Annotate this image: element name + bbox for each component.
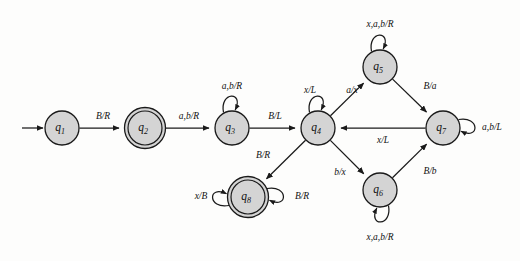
- state-node-q4[interactable]: q4: [301, 111, 335, 145]
- state-node-q3[interactable]: q3: [215, 111, 249, 145]
- edge-label-e_q4_q8: B/R: [256, 150, 270, 160]
- edge-label-e_q5_q7: B/a: [423, 81, 436, 91]
- state-node-q6[interactable]: q6: [363, 173, 397, 207]
- transition-edge-q5-to-q7: [393, 79, 427, 112]
- transition-edge-q4-to-q5: [330, 83, 363, 116]
- transition-edge-q4-to-q8: [267, 140, 306, 178]
- state-node-q5[interactable]: q5: [363, 50, 397, 84]
- edge-label-e_q4_q6: b/x: [334, 167, 346, 177]
- state-diagram-canvas: q1q2q3q4q5q6q7q8 B/Ra,b/RB/La/xB/ax/Lb/x…: [0, 0, 520, 261]
- state-node-q2[interactable]: q2: [125, 108, 166, 149]
- edge-label-e_q7_q4: x/L: [376, 135, 389, 145]
- loop-label-loop_q8_right: B/R: [295, 191, 309, 201]
- loop-label-loop_q8_left: x/B: [194, 191, 208, 201]
- edge-label-e_q1_q2: B/R: [96, 111, 110, 121]
- self-loop-q8: [267, 188, 283, 202]
- edge-label-e_q2_q3: a,b/R: [179, 111, 200, 121]
- self-loop-q8: [213, 192, 229, 206]
- loop-label-loop_q3: a,b/R: [222, 81, 243, 91]
- state-nodes-group: q1q2q3q4q5q6q7q8: [45, 50, 460, 218]
- self-loop-q6: [375, 206, 389, 222]
- state-node-q1[interactable]: q1: [45, 111, 79, 145]
- loop-label-loop_q6: x,a,b/R: [366, 232, 394, 242]
- transition-edge-q6-to-q7: [392, 144, 426, 178]
- edge-label-e_q3_q4: B/L: [268, 111, 282, 121]
- self-loop-q4: [309, 96, 323, 112]
- edge-label-e_q6_q7: B/b: [423, 166, 436, 176]
- state-node-q8[interactable]: q8: [228, 177, 269, 218]
- state-node-q7[interactable]: q7: [426, 111, 460, 145]
- self-loop-q7: [459, 119, 475, 133]
- self-loop-q3: [223, 96, 237, 112]
- self-loop-q5: [371, 35, 385, 51]
- loop-label-loop_q7: a,b/L: [482, 122, 502, 132]
- loop-label-loop_q4: x/L: [303, 85, 316, 95]
- loop-label-loop_q5: x,a,b/R: [366, 19, 394, 29]
- transition-edge-q4-to-q6: [330, 140, 363, 173]
- fsm-svg: q1q2q3q4q5q6q7q8 B/Ra,b/RB/La/xB/ax/Lb/x…: [0, 0, 520, 261]
